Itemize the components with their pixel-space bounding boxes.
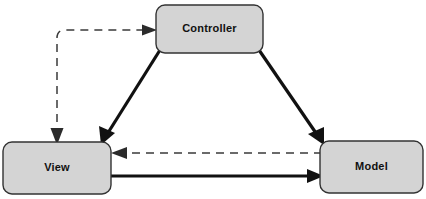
node-controller[interactable]: Controller [156, 5, 263, 53]
edge-model-to-view [111, 147, 322, 159]
edge-controller-to-model-line [259, 50, 318, 136]
edge-controller-to-model [259, 50, 324, 145]
edge-controller-to-view [99, 50, 160, 145]
edge-view-to-model [108, 169, 324, 183]
edge-view-to-controller-line [57, 30, 145, 136]
mvc-diagram: Controller View Model [0, 0, 426, 199]
node-model[interactable]: Model [320, 141, 423, 193]
edge-controller-to-view-line [106, 50, 160, 136]
edge-controller-to-model-arrowhead [308, 127, 324, 145]
node-view-label: View [44, 161, 70, 173]
mvc-diagram-canvas: Controller View Model [0, 0, 426, 199]
edge-model-to-view-arrowhead [111, 147, 127, 159]
node-model-label: Model [355, 160, 388, 172]
node-view[interactable]: View [3, 142, 111, 194]
edge-view-to-controller-arrowhead [142, 25, 157, 36]
node-controller-label: Controller [182, 22, 237, 34]
